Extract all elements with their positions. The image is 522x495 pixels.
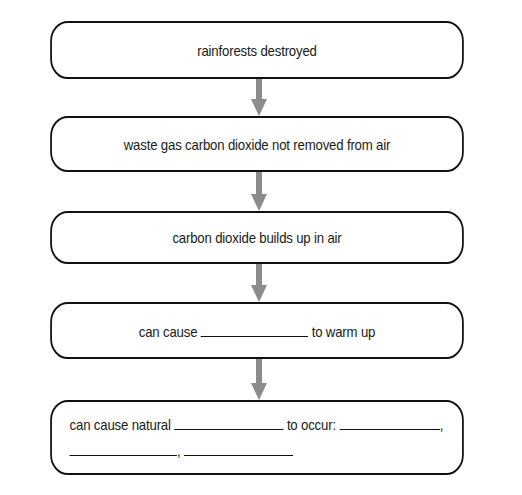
- step-text: waste gas carbon dioxide not removed fro…: [124, 136, 390, 153]
- step-text-middle: to occur:: [287, 416, 336, 433]
- down-arrow-icon: [251, 359, 267, 400]
- step-box-co2-builds-up: carbon dioxide builds up in air: [50, 211, 464, 264]
- step-box-co2-not-removed: waste gas carbon dioxide not removed fro…: [50, 116, 464, 172]
- fill-in-blank[interactable]: [184, 441, 293, 456]
- step-box-rainforests-destroyed: rainforests destroyed: [50, 21, 464, 79]
- step-text-prefix: can cause: [139, 323, 198, 340]
- fill-in-blank[interactable]: [201, 322, 308, 337]
- down-arrow-icon: [251, 172, 267, 211]
- step-box-warm-up: can cause to warm up: [50, 302, 464, 359]
- down-arrow-icon: [251, 264, 267, 302]
- fill-in-blank[interactable]: [70, 441, 177, 456]
- step-box-natural-events: can cause natural to occur: , ,: [50, 400, 464, 475]
- comma-separator: ,: [177, 442, 180, 459]
- step-text: rainforests destroyed: [197, 42, 317, 59]
- comma-separator: ,: [440, 416, 443, 433]
- step-text-suffix: to warm up: [312, 323, 376, 340]
- fill-in-blank[interactable]: [174, 415, 283, 430]
- down-arrow-icon: [251, 79, 267, 116]
- step-text-prefix: can cause natural: [70, 416, 171, 433]
- fill-in-blank[interactable]: [339, 415, 439, 430]
- step-text: carbon dioxide builds up in air: [172, 229, 341, 246]
